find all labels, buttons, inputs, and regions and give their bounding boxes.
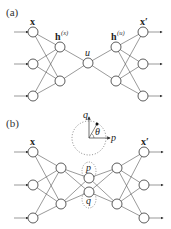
p-axis-label: p <box>110 132 116 143</box>
panel-a-nodes <box>28 27 148 101</box>
output-node <box>139 147 149 157</box>
angle-arc <box>92 134 95 138</box>
output-node <box>138 59 148 69</box>
input-node <box>28 180 38 190</box>
output-node <box>138 91 148 101</box>
hidden-enc-sup: (x) <box>61 29 68 37</box>
hidden-dec-node <box>112 199 122 209</box>
hidden-dec-sup: (u) <box>117 29 125 37</box>
latent-node <box>83 58 93 68</box>
input-label: x <box>30 136 35 147</box>
autoencoder-figure: (a) <box>0 0 171 229</box>
hidden-dec-node <box>112 163 122 173</box>
phase-diagram: q p θ <box>72 109 116 155</box>
output-node <box>139 213 149 223</box>
input-node <box>28 59 38 69</box>
latent-p-label: p <box>85 162 91 173</box>
q-axis-label: q <box>83 109 88 120</box>
input-label: x <box>30 16 35 27</box>
hidden-enc-node <box>56 199 66 209</box>
hidden-enc-node <box>55 76 65 86</box>
panel-a: (a) <box>6 6 162 101</box>
hidden-dec-node <box>111 42 121 52</box>
output-node <box>138 27 148 37</box>
latent-label: u <box>85 47 90 58</box>
panel-a-label: (a) <box>6 6 19 19</box>
latent-q-label: q <box>86 195 91 206</box>
hidden-enc-node <box>56 163 66 173</box>
output-node <box>139 180 149 190</box>
input-node <box>28 213 38 223</box>
input-node <box>28 27 38 37</box>
output-label: x′ <box>140 16 148 27</box>
output-label: x′ <box>141 136 149 147</box>
hidden-dec-node <box>111 76 121 86</box>
theta-label: θ <box>95 126 100 137</box>
panel-b: (b) q p θ <box>6 109 163 223</box>
hidden-enc-node <box>55 42 65 52</box>
latent-p-node <box>84 173 94 183</box>
input-node <box>28 91 38 101</box>
input-node <box>28 147 38 157</box>
panel-b-label: (b) <box>6 117 19 130</box>
